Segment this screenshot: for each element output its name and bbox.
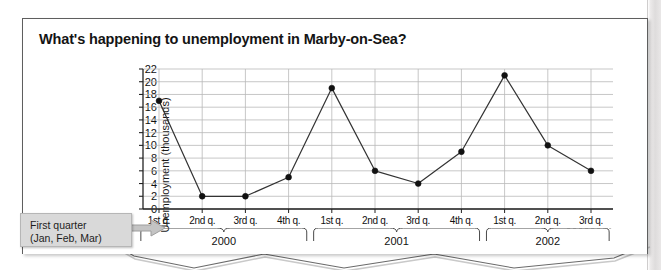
x-tick-label: 3rd q.: [396, 215, 440, 226]
data-point: [156, 98, 162, 104]
x-tick-label: 1st q.: [483, 215, 527, 226]
data-point: [502, 72, 508, 78]
x-tick-label: 3rd q.: [223, 215, 267, 226]
x-tick-label: 2nd q.: [180, 215, 224, 226]
page-right-gutter: [648, 0, 661, 270]
data-point: [329, 85, 335, 91]
data-point: [588, 168, 594, 174]
callout-first-quarter[interactable]: First quarter (Jan, Feb, Mar): [20, 213, 132, 247]
year-group-label: 2002: [518, 235, 578, 247]
x-tick-label: 1st q.: [310, 215, 354, 226]
x-tick-label: 4th q.: [267, 215, 311, 226]
data-point: [415, 181, 421, 187]
year-group-label: 2001: [367, 235, 427, 247]
x-tick-label: 2nd q.: [353, 215, 397, 226]
data-point: [243, 193, 249, 199]
data-point: [545, 142, 551, 148]
year-group-label: 2000: [194, 235, 254, 247]
x-tick-label: 2nd q.: [526, 215, 570, 226]
arrow-right-icon: [131, 219, 167, 239]
data-point: [286, 174, 292, 180]
data-point: [199, 193, 205, 199]
callout-line-1: First quarter: [30, 219, 87, 231]
x-tick-label: 4th q.: [439, 215, 483, 226]
callout-line-2: (Jan, Feb, Mar): [30, 232, 102, 244]
page-root: What's happening to unemployment in Marb…: [0, 0, 661, 270]
x-tick-label: 3rd q.: [569, 215, 613, 226]
data-point: [372, 168, 378, 174]
data-point: [459, 149, 465, 155]
